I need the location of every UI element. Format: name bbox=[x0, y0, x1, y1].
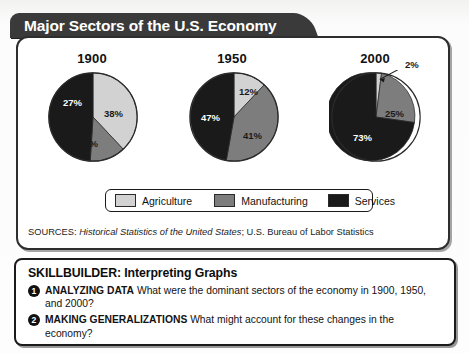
pie-chart-1950: 12% 41% 47% bbox=[187, 70, 281, 164]
skillbuilder-heading: SKILLBUILDER: Interpreting Graphs bbox=[28, 266, 444, 280]
chart-panel: 1900 1950 2000 38% 36% 27% 12% 41% 47 bbox=[16, 36, 450, 250]
skillbuilder-body-1: ANALYZING DATA What were the dominant se… bbox=[45, 284, 444, 310]
pie-slice-value-manufacturing-2000: 25% bbox=[385, 108, 404, 119]
title-banner: Major Sectors of the U.S. Economy bbox=[10, 13, 300, 38]
pie-slice-value-manufacturing-1950: 41% bbox=[243, 130, 262, 141]
sources-title: Historical Statistics of the United Stat… bbox=[79, 227, 241, 237]
pie-slice-value-services-1900: 27% bbox=[63, 97, 82, 108]
pie-chart-1900: 38% 36% 27% bbox=[46, 70, 140, 164]
pie-slice-value-manufacturing-1900: 36% bbox=[79, 138, 98, 149]
legend-label-services: Services bbox=[355, 195, 395, 207]
pie-year-label-1950: 1950 bbox=[187, 51, 277, 66]
pie-slice-value-services-1950: 47% bbox=[201, 112, 220, 123]
legend-swatch-services bbox=[328, 194, 349, 207]
chart-legend: Agriculture Manufacturing Services bbox=[105, 189, 373, 212]
pie-year-label-1900: 1900 bbox=[47, 51, 137, 66]
sources-line: SOURCES: Historical Statistics of the Un… bbox=[28, 227, 374, 237]
skillbuilder-body-2: MAKING GENERALIZATIONS What might accoun… bbox=[45, 313, 444, 339]
pie-slice-value-agriculture-1950: 12% bbox=[239, 86, 258, 97]
skillbuilder-box: SKILLBUILDER: Interpreting Graphs 1 ANAL… bbox=[14, 258, 456, 346]
pie-svg-2000 bbox=[329, 70, 423, 164]
sources-suffix: ; U.S. Bureau of Labor Statistics bbox=[241, 227, 373, 237]
pie-slice-value-agriculture-1900: 38% bbox=[104, 108, 123, 119]
page-title: Major Sectors of the U.S. Economy bbox=[24, 17, 277, 35]
legend-swatch-agriculture bbox=[115, 194, 136, 207]
pie-chart-2000: 2% 25% 73% bbox=[329, 70, 423, 164]
legend-item-manufacturing: Manufacturing bbox=[214, 194, 308, 207]
skillbuilder-item-2: 2 MAKING GENERALIZATIONS What might acco… bbox=[28, 313, 444, 339]
legend-label-agriculture: Agriculture bbox=[142, 195, 192, 207]
pie-slice-value-agriculture-2000: 2% bbox=[405, 59, 419, 70]
skillbuilder-kicker-1: ANALYZING DATA bbox=[45, 285, 134, 296]
pie-svg-1900 bbox=[46, 70, 140, 164]
legend-label-manufacturing: Manufacturing bbox=[241, 195, 308, 207]
skillbuilder-number-2: 2 bbox=[28, 314, 40, 326]
legend-item-services: Services bbox=[328, 194, 395, 207]
pie-slice-value-services-2000: 73% bbox=[353, 132, 372, 143]
skillbuilder-kicker-2: MAKING GENERALIZATIONS bbox=[45, 314, 187, 325]
sources-prefix: SOURCES: bbox=[28, 227, 77, 237]
skillbuilder-number-1: 1 bbox=[28, 285, 40, 297]
legend-swatch-manufacturing bbox=[214, 194, 235, 207]
legend-item-agriculture: Agriculture bbox=[115, 194, 192, 207]
skillbuilder-item-1: 1 ANALYZING DATA What were the dominant … bbox=[28, 284, 444, 310]
